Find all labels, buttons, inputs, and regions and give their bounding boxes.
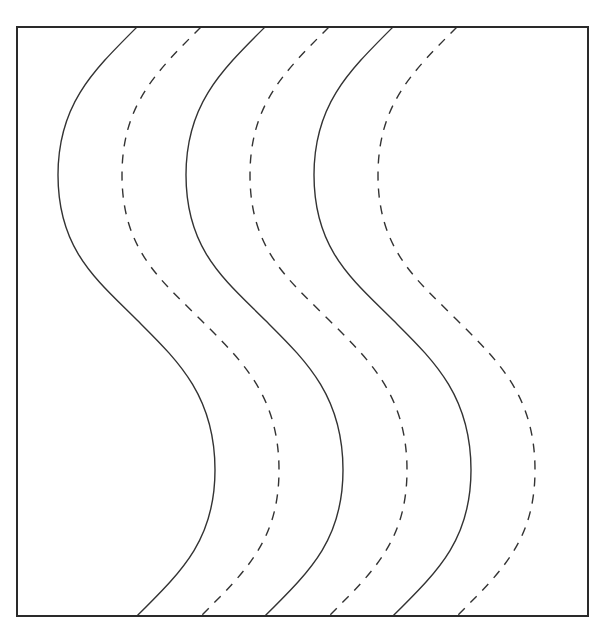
bounding-box [17, 27, 588, 616]
solid-wave-line-5 [314, 27, 471, 616]
wavy-lines [58, 27, 535, 616]
dashed-wave-line-2 [122, 27, 279, 616]
solid-wave-line-3 [186, 27, 343, 616]
dashed-wave-line-6 [378, 27, 535, 616]
wave-diagram [0, 0, 606, 631]
solid-wave-line-1 [58, 27, 215, 616]
dashed-wave-line-4 [250, 27, 407, 616]
